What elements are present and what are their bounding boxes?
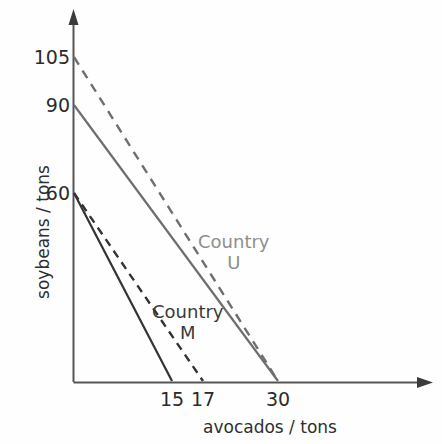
x-tick-label-30: 30 [258,388,298,410]
y-tick-label-105: 105 [10,46,70,68]
series-line-country-m-dashed [74,193,203,381]
series-line-country-m-solid [74,193,172,381]
series-annotation-country-u-line2: U [198,252,270,273]
x-tick-label-17: 17 [183,388,223,410]
series-annotation-country-m: Country M [152,301,224,343]
series-annotation-country-m-line2: M [152,322,224,343]
y-axis-arrowhead [69,9,79,25]
y-tick-label-90: 90 [10,94,70,116]
series-annotation-country-m-line1: Country [152,301,224,322]
x-axis-arrowhead [417,377,433,388]
series-annotation-country-u-line1: Country [198,231,270,252]
series-annotation-country-u: Country U [198,231,270,273]
chart-container: 105 90 60 15 17 30 soybeans / tons avoca… [0,0,442,444]
y-axis-title: soybeans / tons [33,147,53,317]
x-axis-title: avocados / tons [203,417,337,437]
